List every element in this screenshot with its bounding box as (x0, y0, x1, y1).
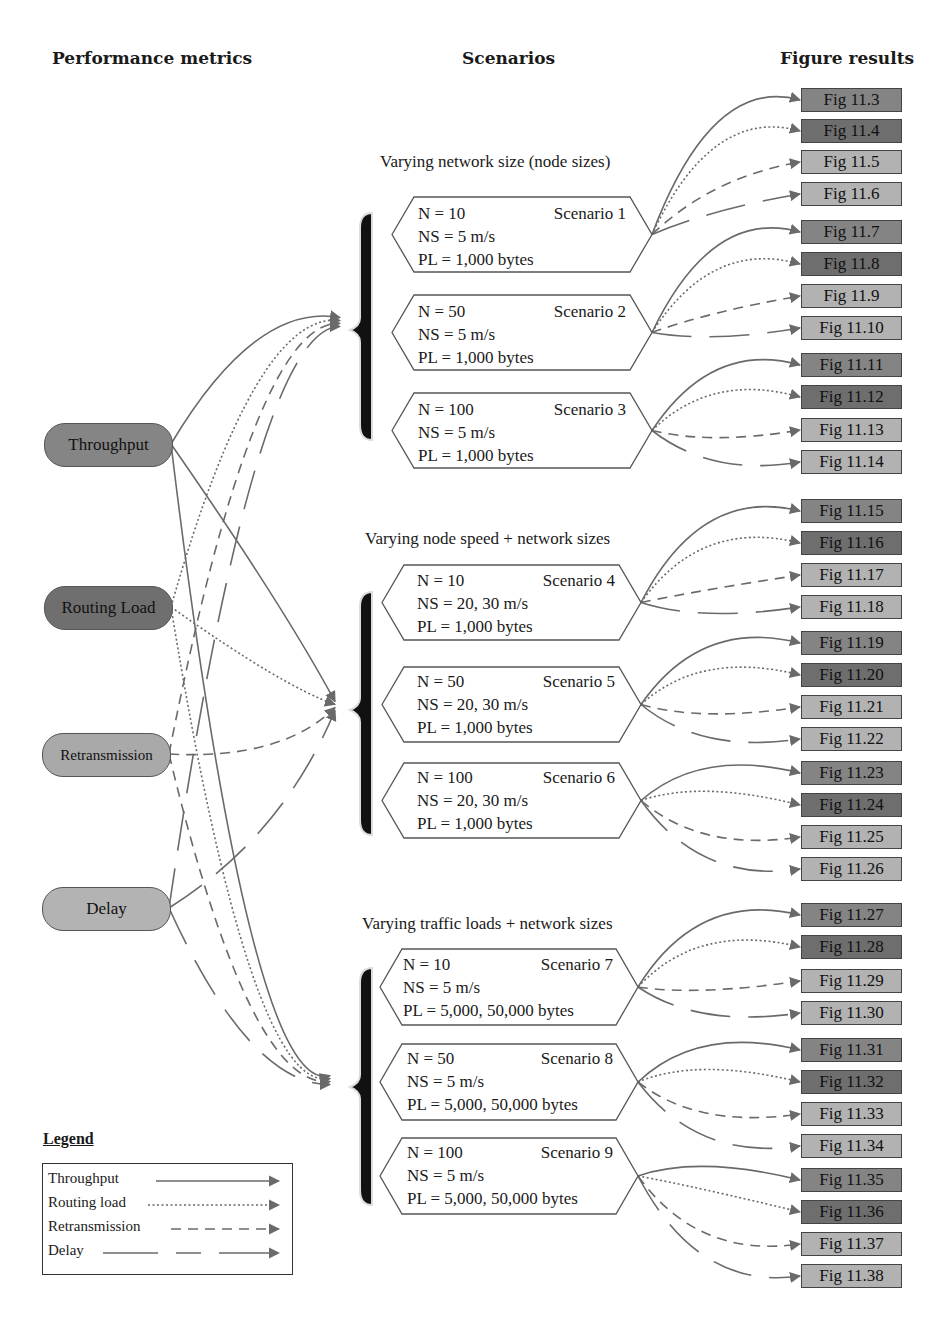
scenario-ns: NS = 5 m/s (418, 421, 626, 444)
scenario-ns: NS = 5 m/s (403, 976, 613, 999)
scenario-6: N = 100Scenario 6 NS = 20, 30 m/s PL = 1… (417, 766, 615, 835)
figure-result-box: Fig 11.16 (801, 531, 902, 555)
scenario-7: N = 10Scenario 7 NS = 5 m/s PL = 5,000, … (403, 953, 613, 1022)
figure-result-box: Fig 11.38 (801, 1264, 902, 1288)
figure-result-box: Fig 11.9 (801, 284, 902, 308)
scenario-name: Scenario 4 (543, 569, 615, 592)
metric-label: Throughput (68, 435, 148, 455)
scenario-name: Scenario 6 (543, 766, 615, 789)
figure-result-box: Fig 11.29 (801, 969, 902, 993)
scenario-ns: NS = 20, 30 m/s (417, 693, 615, 716)
metric-label: Delay (86, 899, 127, 919)
figure-result-box: Fig 11.32 (801, 1070, 902, 1094)
scenario-ns: NS = 5 m/s (418, 323, 626, 346)
figure-result-box: Fig 11.12 (801, 385, 902, 409)
scenario-pl: PL = 1,000 bytes (417, 812, 615, 835)
figure-result-box: Fig 11.26 (801, 857, 902, 881)
figure-result-box: Fig 11.13 (801, 418, 902, 442)
figure-result-box: Fig 11.25 (801, 825, 902, 849)
metric-node-routing-load: Routing Load (44, 586, 173, 630)
scenario-9: N = 100Scenario 9 NS = 5 m/s PL = 5,000,… (407, 1141, 613, 1210)
scenario-5: N = 50Scenario 5 NS = 20, 30 m/s PL = 1,… (417, 670, 615, 739)
scenario-name: Scenario 1 (554, 202, 626, 225)
figure-result-box: Fig 11.22 (801, 727, 902, 751)
scenario-name: Scenario 3 (554, 398, 626, 421)
figure-result-box: Fig 11.15 (801, 499, 902, 523)
scenario-ns: NS = 20, 30 m/s (417, 592, 615, 615)
figure-result-box: Fig 11.8 (801, 252, 902, 276)
scenario-name: Scenario 9 (541, 1141, 613, 1164)
figure-result-box: Fig 11.21 (801, 695, 902, 719)
legend-title: Legend (43, 1130, 94, 1148)
scenario-n: N = 50 (407, 1047, 454, 1070)
scenario-name: Scenario 5 (543, 670, 615, 693)
scenario-pl: PL = 1,000 bytes (418, 346, 626, 369)
scenario-name: Scenario 8 (541, 1047, 613, 1070)
figure-result-box: Fig 11.37 (801, 1232, 902, 1256)
group-title-network-size: Varying network size (node sizes) (380, 152, 610, 172)
figure-result-box: Fig 11.19 (801, 631, 902, 655)
figure-result-box: Fig 11.20 (801, 663, 902, 687)
scenario-2: N = 50Scenario 2 NS = 5 m/s PL = 1,000 b… (418, 300, 626, 369)
group-title-traffic-loads: Varying traffic loads + network sizes (362, 914, 613, 934)
scenario-name: Scenario 2 (554, 300, 626, 323)
scenario-4: N = 10Scenario 4 NS = 20, 30 m/s PL = 1,… (417, 569, 615, 638)
figure-result-box: Fig 11.4 (801, 119, 902, 143)
scenario-1: N = 10Scenario 1 NS = 5 m/s PL = 1,000 b… (418, 202, 626, 271)
figure-result-box: Fig 11.14 (801, 450, 902, 474)
scenario-n: N = 10 (403, 953, 450, 976)
metric-node-delay: Delay (42, 887, 171, 931)
figure-result-box: Fig 11.5 (801, 150, 902, 174)
metric-node-throughput: Throughput (44, 423, 173, 467)
scenario-name: Scenario 7 (541, 953, 613, 976)
figure-result-box: Fig 11.6 (801, 182, 902, 206)
legend-line-samples (43, 1164, 294, 1276)
figure-result-box: Fig 11.18 (801, 595, 902, 619)
scenario-ns: NS = 5 m/s (407, 1164, 613, 1187)
figure-result-box: Fig 11.10 (801, 316, 902, 340)
scenario-pl: PL = 1,000 bytes (417, 615, 615, 638)
scenario-ns: NS = 5 m/s (418, 225, 626, 248)
figure-result-box: Fig 11.24 (801, 793, 902, 817)
figure-result-box: Fig 11.34 (801, 1134, 902, 1158)
metric-label: Routing Load (62, 598, 156, 618)
scenario-n: N = 100 (417, 766, 473, 789)
scenario-n: N = 100 (407, 1141, 463, 1164)
figure-result-box: Fig 11.36 (801, 1200, 902, 1224)
figure-result-box: Fig 11.31 (801, 1038, 902, 1062)
group-brackets (350, 213, 372, 1205)
legend-box: Throughput Routing load Retransmission D… (42, 1163, 293, 1275)
scenario-pl: PL = 5,000, 50,000 bytes (407, 1187, 613, 1210)
scenario-8: N = 50Scenario 8 NS = 5 m/s PL = 5,000, … (407, 1047, 613, 1116)
scenario-n: N = 50 (417, 670, 464, 693)
scenario-pl: PL = 1,000 bytes (418, 248, 626, 271)
scenario-3: N = 100Scenario 3 NS = 5 m/s PL = 1,000 … (418, 398, 626, 467)
figure-result-box: Fig 11.23 (801, 761, 902, 785)
scenario-ns: NS = 20, 30 m/s (417, 789, 615, 812)
scenario-n: N = 10 (417, 569, 464, 592)
scenario-n: N = 100 (418, 398, 474, 421)
scenario-pl: PL = 1,000 bytes (417, 716, 615, 739)
figure-result-box: Fig 11.35 (801, 1168, 902, 1192)
scenario-n: N = 50 (418, 300, 465, 323)
metric-node-retransmission: Retransmission (42, 733, 171, 777)
figure-result-box: Fig 11.27 (801, 903, 902, 927)
metric-label: Retransmission (60, 747, 153, 764)
scenario-n: N = 10 (418, 202, 465, 225)
figure-result-box: Fig 11.30 (801, 1001, 902, 1025)
figure-result-box: Fig 11.33 (801, 1102, 902, 1126)
figure-result-box: Fig 11.7 (801, 220, 902, 244)
figure-result-box: Fig 11.28 (801, 935, 902, 959)
scenario-pl: PL = 1,000 bytes (418, 444, 626, 467)
group-title-node-speed: Varying node speed + network sizes (365, 529, 610, 549)
scenario-pl: PL = 5,000, 50,000 bytes (407, 1093, 613, 1116)
figure-result-box: Fig 11.11 (801, 353, 902, 377)
figure-result-box: Fig 11.17 (801, 563, 902, 587)
scenario-ns: NS = 5 m/s (407, 1070, 613, 1093)
figure-result-box: Fig 11.3 (801, 88, 902, 112)
scenario-pl: PL = 5,000, 50,000 bytes (403, 999, 613, 1022)
